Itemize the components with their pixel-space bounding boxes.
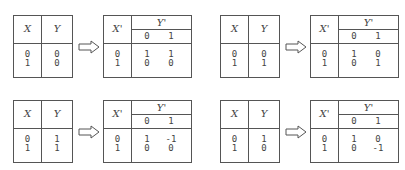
output-cell: 0: [344, 58, 364, 68]
transformation-panel-1: X Y 0 1 0 0 X' Y' 0 1 0 1 1 1 0 0: [0, 0, 200, 80]
transformation-panel-2: X Y 0 1 0 1 X' Y' 0 1 0 1 1 0 0 1: [207, 0, 405, 80]
output-table: X' Y' 0 1 0 1 1 1 0 0: [103, 15, 192, 78]
input-x-value: 1: [14, 58, 41, 68]
header-y-prime: Y': [339, 18, 398, 28]
header-y-prime: Y': [132, 103, 191, 113]
output-cell: 0: [137, 58, 157, 68]
header-divider: [221, 43, 279, 44]
y-prime-subheader-divider: [339, 29, 398, 30]
input-x-value: 1: [221, 58, 248, 68]
header-divider: [221, 128, 279, 129]
y-prime-sub-0: 0: [344, 31, 364, 41]
output-table: X' Y' 0 1 0 1 1 0 0 1: [310, 15, 399, 78]
y-prime-subheader-divider: [132, 114, 191, 115]
right-arrow-icon: [285, 40, 307, 54]
header-x: X: [14, 24, 41, 34]
header-y: Y: [249, 24, 279, 34]
input-table: X Y 0 1 1 1: [13, 100, 73, 163]
header-x-prime: X': [311, 109, 338, 119]
input-table: X Y 0 1 1 0: [220, 100, 280, 163]
y-prime-sub-0: 0: [137, 31, 157, 41]
y-prime-sub-1: 1: [161, 31, 181, 41]
header-y-prime: Y': [132, 18, 191, 28]
header-x: X: [221, 109, 248, 119]
output-x-prime-value: 1: [311, 58, 338, 68]
right-arrow-icon: [285, 125, 307, 139]
transformation-panel-4: X Y 0 1 1 0 X' Y' 0 1 0 1 1 0 0 -1: [207, 85, 405, 165]
right-arrow-icon: [78, 40, 100, 54]
output-cell: 0: [159, 143, 183, 153]
input-table: X Y 0 1 0 0: [13, 15, 73, 78]
header-x-prime: X': [104, 24, 131, 34]
input-y-value: 0: [249, 143, 279, 153]
y-prime-sub-0: 0: [344, 116, 364, 126]
output-x-prime-value: 1: [311, 143, 338, 153]
output-cell: 0: [159, 58, 183, 68]
header-divider: [104, 128, 191, 129]
input-y-value: 1: [42, 143, 72, 153]
header-divider: [14, 43, 72, 44]
header-x: X: [14, 109, 41, 119]
y-prime-subheader-divider: [339, 114, 398, 115]
header-divider: [104, 43, 191, 44]
input-y-value: 1: [249, 58, 279, 68]
y-prime-sub-0: 0: [137, 116, 157, 126]
header-y: Y: [42, 24, 72, 34]
header-x-prime: X': [311, 24, 338, 34]
y-prime-subheader-divider: [132, 29, 191, 30]
output-cell: 0: [137, 143, 157, 153]
header-divider: [311, 43, 398, 44]
input-y-value: 0: [42, 58, 72, 68]
transformation-panel-3: X Y 0 1 1 1 X' Y' 0 1 0 1 1 -1 0 0: [0, 85, 200, 165]
header-y: Y: [249, 109, 279, 119]
output-table: X' Y' 0 1 0 1 1 -1 0 0: [103, 100, 192, 163]
input-x-value: 1: [221, 143, 248, 153]
input-x-value: 1: [14, 143, 41, 153]
y-prime-sub-1: 1: [368, 31, 388, 41]
output-cell: -1: [366, 143, 390, 153]
y-prime-sub-1: 1: [368, 116, 388, 126]
header-divider: [14, 128, 72, 129]
input-table: X Y 0 1 0 1: [220, 15, 280, 78]
y-prime-sub-1: 1: [161, 116, 181, 126]
header-x: X: [221, 24, 248, 34]
header-y: Y: [42, 109, 72, 119]
right-arrow-icon: [78, 125, 100, 139]
output-x-prime-value: 1: [104, 58, 131, 68]
output-cell: 0: [344, 143, 364, 153]
header-x-prime: X': [104, 109, 131, 119]
output-cell: 1: [366, 58, 390, 68]
output-x-prime-value: 1: [104, 143, 131, 153]
header-y-prime: Y': [339, 103, 398, 113]
header-divider: [311, 128, 398, 129]
output-table: X' Y' 0 1 0 1 1 0 0 -1: [310, 100, 399, 163]
